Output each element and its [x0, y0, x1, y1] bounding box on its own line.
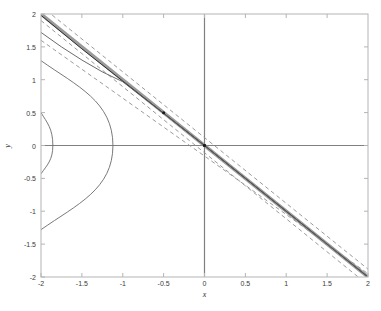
- xtick-label-5: 0.5: [241, 280, 251, 287]
- ytick-label-4: 0: [10, 142, 36, 149]
- xtick-label-3: -0.5: [158, 280, 170, 287]
- xtick-label-7: 1.5: [322, 280, 332, 287]
- marker-origin: [203, 144, 206, 147]
- plot-svg: [0, 0, 381, 311]
- ytick-label-2: -1: [10, 208, 36, 215]
- xtick-label-8: 2: [366, 280, 370, 287]
- ytick-label-8: 2: [10, 11, 36, 18]
- xtick-label-2: -1: [120, 280, 126, 287]
- figure-canvas: -2 -1.5 -1 -0.5 0 0.5 1 1.5 2 -2 -1.5 -1…: [0, 0, 381, 311]
- marker-midpoint: [162, 111, 165, 114]
- xtick-label-4: 0: [203, 280, 207, 287]
- ytick-label-3: -0.5: [10, 175, 36, 182]
- yaxis-title: y: [4, 144, 12, 148]
- xaxis-title: x: [203, 291, 207, 299]
- xtick-label-6: 1: [284, 280, 288, 287]
- ytick-label-5: 0.5: [10, 109, 36, 116]
- ytick-label-0: -2: [10, 274, 36, 281]
- ytick-label-1: -1.5: [10, 241, 36, 248]
- ytick-label-7: 1.5: [10, 43, 36, 50]
- xtick-label-0: -2: [38, 280, 44, 287]
- ytick-label-6: 1: [10, 76, 36, 83]
- xtick-label-1: -1.5: [76, 280, 88, 287]
